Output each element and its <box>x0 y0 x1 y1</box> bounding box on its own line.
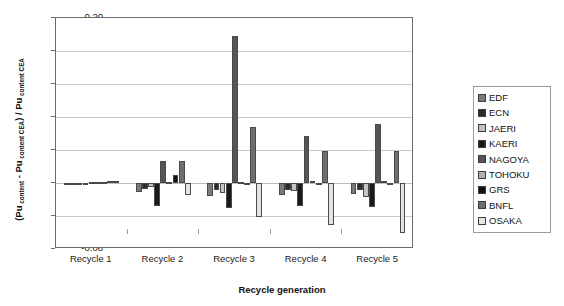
legend-swatch-icon <box>478 94 486 102</box>
bar <box>207 183 213 196</box>
legend-label: JAERI <box>489 124 516 134</box>
x-category-label: Recycle 5 <box>341 253 413 264</box>
bar <box>160 161 166 183</box>
bar <box>166 182 172 184</box>
bar <box>107 181 113 183</box>
bar <box>363 183 369 197</box>
bar <box>351 183 357 194</box>
legend-label: GRS <box>489 185 510 195</box>
chart-root: (Pu content - Pu content CEA) / Pu conte… <box>0 0 564 306</box>
bar <box>244 183 250 185</box>
legend-swatch-icon <box>478 171 486 179</box>
bar <box>256 183 262 217</box>
bar <box>179 161 185 183</box>
x-category-label: Recycle 2 <box>127 253 199 264</box>
bar <box>238 182 244 184</box>
legend-swatch-icon <box>478 201 486 209</box>
bar <box>285 183 291 190</box>
legend-item[interactable]: ECN <box>478 105 547 120</box>
bar <box>394 151 400 183</box>
bar <box>226 183 232 208</box>
legend-swatch-icon <box>478 186 486 194</box>
legend-label: NAGOYA <box>489 155 529 165</box>
bar <box>76 183 82 185</box>
bar <box>375 124 381 183</box>
legend-item[interactable]: GRS <box>478 182 547 197</box>
legend-swatch-icon <box>478 217 486 225</box>
bar <box>304 136 310 183</box>
y-axis-title: (Pu content - Pu content CEA) / Pu conte… <box>13 24 26 254</box>
legend-item[interactable]: JAERI <box>478 121 547 136</box>
legend-swatch-icon <box>478 124 486 132</box>
bar <box>357 183 363 190</box>
legend-item[interactable]: KAERI <box>478 136 547 151</box>
legend-swatch-icon <box>478 109 486 117</box>
bar <box>95 182 101 184</box>
legend-label: OSAKA <box>489 216 522 226</box>
bar <box>113 181 119 183</box>
legend-item[interactable]: NAGOYA <box>478 152 547 167</box>
legend: EDFECNJAERIKAERINAGOYATOHOKUGRSBNFLOSAKA <box>473 86 551 233</box>
bar <box>214 183 220 190</box>
grid-line <box>56 216 412 217</box>
legend-label: BNFL <box>489 201 513 211</box>
bar <box>83 183 89 185</box>
legend-label: EDF <box>489 93 508 103</box>
plot-area <box>55 17 413 248</box>
legend-label: KAERI <box>489 139 518 149</box>
legend-item[interactable]: BNFL <box>478 198 547 213</box>
bar <box>310 181 316 183</box>
x-category-label: Recycle 4 <box>270 253 342 264</box>
y-tick-mark <box>51 248 55 249</box>
bar <box>297 183 303 206</box>
x-axis-separator <box>270 229 271 234</box>
legend-swatch-icon <box>478 155 486 163</box>
bar <box>142 183 148 189</box>
legend-item[interactable]: TOHOKU <box>478 167 547 182</box>
legend-swatch-icon <box>478 140 486 148</box>
bar <box>279 183 285 195</box>
bar <box>148 183 154 187</box>
legend-item[interactable]: OSAKA <box>478 213 547 228</box>
bar <box>173 175 179 183</box>
x-axis-separator <box>198 229 199 234</box>
bar <box>154 183 160 206</box>
x-axis-separator <box>127 229 128 234</box>
bar <box>381 181 387 183</box>
legend-item[interactable]: EDF <box>478 90 547 105</box>
bar <box>220 183 226 193</box>
x-axis-separator <box>341 229 342 234</box>
bar <box>328 183 334 225</box>
bar <box>232 36 238 183</box>
bar <box>101 182 107 184</box>
x-category-label: Recycle 1 <box>55 253 127 264</box>
bar <box>64 183 70 185</box>
bar <box>136 183 142 192</box>
bar <box>291 183 297 191</box>
bar <box>369 183 375 207</box>
x-axis-title: Recycle generation <box>0 284 564 295</box>
bar <box>185 183 191 195</box>
bar <box>316 183 322 185</box>
bar <box>89 182 95 184</box>
bar <box>387 183 393 185</box>
bar <box>70 183 76 185</box>
legend-label: TOHOKU <box>489 170 529 180</box>
legend-label: ECN <box>489 108 509 118</box>
bar <box>400 183 406 233</box>
x-category-label: Recycle 3 <box>198 253 270 264</box>
bar <box>322 151 328 183</box>
bar <box>250 127 256 183</box>
